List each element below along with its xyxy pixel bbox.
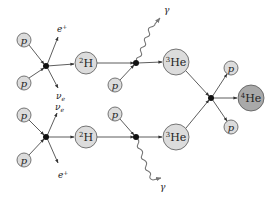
arrow-to-deuterium	[47, 64, 74, 66]
proton-node: p	[224, 61, 238, 75]
proton-label: p	[228, 122, 235, 133]
arrow-to-p7	[212, 74, 227, 97]
proton-label: p	[21, 35, 28, 46]
helium3-node: 3He	[163, 124, 189, 150]
vertex-dot	[43, 134, 49, 140]
element-symbol: H	[83, 131, 93, 144]
element-symbol: He	[170, 131, 186, 144]
upper-branch	[29, 18, 162, 88]
deuterium-nodes: 2H 2H	[75, 52, 97, 148]
arrow-to-p8	[212, 99, 227, 121]
arrow-p3-to-vertex	[120, 65, 134, 80]
element-symbol: He	[170, 56, 186, 69]
proton-node: p	[17, 76, 31, 90]
arrow-p1-to-vertex	[29, 45, 44, 64]
vertex-dot	[43, 63, 49, 69]
proton-label: p	[112, 80, 119, 91]
element-symbol: He	[245, 92, 261, 105]
arrow-to-neutrino	[47, 67, 58, 88]
proton-node: p	[17, 108, 31, 122]
proton-node: p	[108, 78, 122, 92]
positron-label: e+	[57, 23, 67, 34]
deuterium-node: 2H	[75, 126, 97, 148]
helium3-node: 3He	[163, 49, 189, 75]
proton-label: p	[21, 155, 28, 166]
proton-label: p	[21, 78, 28, 89]
photon-wave-upper	[136, 18, 160, 62]
photon-label: γ	[160, 182, 166, 192]
arrow-p4-to-vertex	[29, 120, 44, 135]
photon-wave-lower	[137, 138, 161, 180]
arrow-helium3a-to-vertex	[186, 71, 209, 96]
proton-label: p	[21, 110, 28, 121]
arrow-to-neutrino	[47, 113, 57, 136]
vertex-dot	[208, 95, 214, 101]
arrow-to-helium3	[137, 62, 162, 63]
helium3-nodes: 3He 3He	[163, 49, 189, 150]
proton-label: p	[112, 109, 119, 120]
arrow-p6-to-vertex	[120, 119, 134, 135]
arrow-to-positron	[47, 37, 58, 65]
helium4-node: 4He	[238, 85, 264, 111]
element-symbol: H	[83, 57, 93, 70]
proton-node: p	[108, 107, 122, 121]
particle-labels: e+ νe νe e+ γ γ	[55, 5, 170, 192]
proton-label: p	[228, 63, 235, 74]
arrow-p2-to-vertex	[29, 68, 44, 78]
lower-branch	[29, 113, 162, 180]
pp-chain-diagram: p p p p p p p p	[0, 0, 280, 201]
positron-label: e+	[58, 169, 68, 180]
arrow-p5-to-vertex	[29, 139, 44, 155]
neutrino-label: νe	[55, 102, 64, 113]
arrow-helium3b-to-vertex	[186, 100, 209, 128]
proton-nodes: p p p p p p p p	[17, 33, 238, 167]
vertex-dot	[133, 60, 139, 66]
vertex-dot	[133, 134, 139, 140]
proton-node: p	[17, 153, 31, 167]
neutrino-label: νe	[56, 91, 65, 102]
vertices	[43, 60, 214, 140]
photon-label: γ	[164, 5, 170, 15]
arrow-to-positron	[47, 138, 58, 163]
deuterium-node: 2H	[75, 52, 97, 74]
proton-node: p	[17, 33, 31, 47]
proton-node: p	[224, 120, 238, 134]
